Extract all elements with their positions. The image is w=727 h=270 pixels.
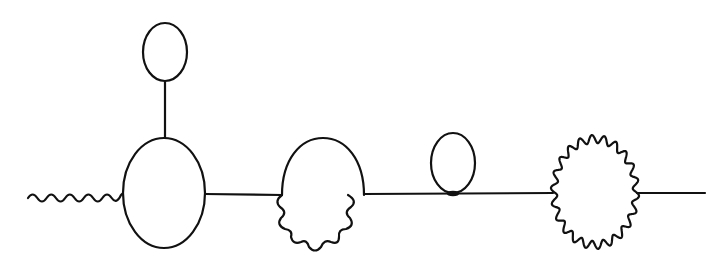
vertex-blob	[123, 138, 205, 248]
propagator-line-1	[205, 194, 282, 195]
mixed-loop-solid-arc	[282, 138, 364, 195]
photon-loop	[551, 135, 639, 249]
feynman-diagram	[0, 0, 727, 270]
tadpole-vertex-dot	[448, 192, 458, 195]
external-photon-line	[28, 194, 122, 202]
tadpole-top-loop	[143, 23, 187, 81]
tadpole-loop-2	[431, 133, 475, 193]
mixed-loop-wavy-arc	[277, 195, 353, 251]
